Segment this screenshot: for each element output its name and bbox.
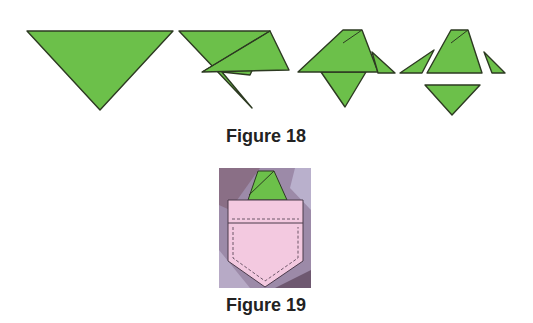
figure-18-caption: Figure 18: [166, 126, 366, 147]
trapezoid-step-4: [427, 30, 482, 73]
triangle-step-1: [27, 31, 173, 110]
flap-step-4-right: [484, 52, 505, 73]
triangle-step-4-bottom: [425, 85, 480, 115]
figure-19-caption: Figure 19: [166, 295, 366, 316]
figure-18-diagram: [0, 0, 533, 323]
figure-19-pocket-illustration: [219, 168, 311, 288]
trapezoid-step-3: [298, 30, 378, 72]
triangle-step-3-bottom: [321, 72, 366, 107]
